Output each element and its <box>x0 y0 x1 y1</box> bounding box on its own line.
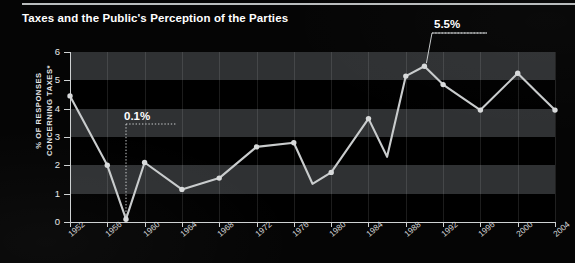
grid-line-vertical <box>368 52 369 222</box>
grid-line-vertical <box>331 52 332 222</box>
y-axis-tick-label: 3 <box>42 131 60 142</box>
y-axis-tick <box>64 109 70 110</box>
y-axis-tick-label: 5 <box>42 74 60 85</box>
y-axis-tick-label: 0 <box>42 216 60 227</box>
y-axis-tick <box>64 165 70 166</box>
grid-band <box>70 165 555 193</box>
grid-line-vertical <box>555 52 556 222</box>
grid-line-vertical <box>257 52 258 222</box>
y-axis-tick-label: 1 <box>42 188 60 199</box>
grid-line-vertical <box>182 52 183 222</box>
grid-line-vertical <box>406 52 407 222</box>
y-axis-line <box>70 52 71 223</box>
grid-line-vertical <box>107 52 108 222</box>
grid-line-vertical <box>480 52 481 222</box>
x-axis-line <box>70 222 556 223</box>
y-axis-tick <box>64 137 70 138</box>
grid-line-vertical <box>294 52 295 222</box>
top-divider-rule <box>22 3 575 5</box>
chart-title: Taxes and the Public's Perception of the… <box>22 12 288 24</box>
grid-line-vertical <box>443 52 444 222</box>
annotation-high-value: 5.5% <box>434 18 460 30</box>
y-axis-tick <box>64 52 70 53</box>
y-axis-tick-label: 6 <box>42 46 60 57</box>
annotation-low-value: 0.1% <box>124 110 150 122</box>
plot-area <box>70 52 555 222</box>
grid-line-vertical <box>518 52 519 222</box>
grid-line-vertical <box>145 52 146 222</box>
y-axis-tick <box>64 194 70 195</box>
grid-band <box>70 52 555 80</box>
grid-line-vertical <box>219 52 220 222</box>
y-axis-tick-label: 4 <box>42 103 60 114</box>
y-axis-tick <box>64 80 70 81</box>
y-axis-tick-label: 2 <box>42 159 60 170</box>
chart-figure: Taxes and the Public's Perception of the… <box>0 0 575 263</box>
